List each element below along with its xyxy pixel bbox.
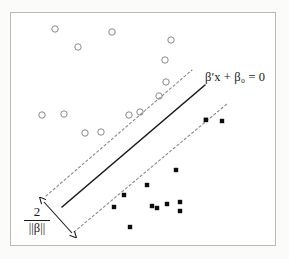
data-point-filled [220,119,224,123]
upper-margin-line [46,70,192,196]
data-point-filled [122,193,126,197]
data-point-open [162,57,168,63]
data-point-filled [165,202,169,206]
hyperplane-equation-label: β′x + β₀ = 0 [205,70,265,85]
margin-denominator: ||β|| [22,222,52,235]
data-point-open [52,26,58,32]
decision-boundary-group [62,85,205,207]
data-point-open [75,44,81,50]
lower-margin-line [74,103,228,232]
data-point-open [168,37,174,43]
data-point-open [109,29,115,35]
data-point-filled [204,118,209,123]
data-point-filled [178,200,182,204]
open-circle-points [39,26,174,136]
svm-margin-figure: β′x + β₀ = 0 2 ||β|| [0,0,289,259]
data-point-filled [178,209,182,213]
filled-square-points [112,118,224,230]
data-point-filled [145,183,149,187]
data-point-filled [128,225,132,229]
margin-numerator: 2 [22,205,52,219]
margin-width-label: 2 ||β|| [22,205,52,235]
decision-boundary-line [62,85,205,207]
data-point-open [82,130,88,136]
data-point-open [163,79,169,85]
data-point-filled [150,204,154,208]
data-point-open [126,112,132,118]
data-point-filled [112,205,116,209]
data-point-open [61,111,67,117]
margin-lines-group [46,70,228,232]
data-point-filled [155,206,159,210]
data-point-open [39,112,45,118]
data-point-open [98,129,104,135]
data-point-filled [174,168,178,172]
